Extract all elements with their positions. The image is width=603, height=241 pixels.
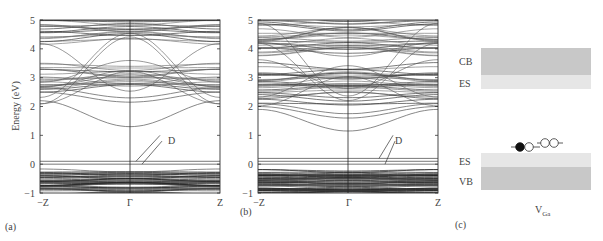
annotation-pointer [379, 135, 393, 158]
vb-label: VB [459, 176, 473, 187]
panel-label-a: (a) [5, 221, 16, 233]
xtick-minus-z-b: −Z [253, 197, 265, 208]
vb-band [481, 167, 591, 190]
defect-label-sub: Ga [542, 210, 551, 218]
annotation-pointer [142, 141, 162, 164]
defect-label: VGa [535, 204, 551, 218]
y-tick-label: 3 [30, 72, 35, 83]
annotation-pointer [385, 141, 395, 164]
xtick-gamma-a: Γ [127, 197, 133, 208]
figure-canvas: −1012345 −1012345 Energy (eV) −Z Γ Z (a)… [0, 0, 603, 241]
annotation-d-a: D [168, 135, 175, 146]
y-tick-label: 0 [30, 159, 35, 170]
panel-b-band-structure: −1012345 [242, 15, 438, 199]
y-tick-label: 2 [30, 101, 35, 112]
es-band-top [481, 75, 591, 89]
y-tick-label: 5 [248, 15, 253, 26]
filled-electron-icon [516, 143, 525, 152]
y-tick-label: 1 [248, 130, 253, 141]
y-tick-label: 4 [248, 43, 253, 54]
panel-a-band-structure: −1012345 [24, 15, 220, 199]
y-tick-label: 4 [30, 43, 35, 54]
y-tick-label: 1 [30, 130, 35, 141]
xtick-minus-z-a: −Z [37, 197, 49, 208]
es-band-bottom [481, 153, 591, 167]
panel-label-b: (b) [240, 206, 252, 218]
y-tick-label: 2 [248, 101, 253, 112]
cb-label: CB [459, 56, 473, 67]
y-axis-label: Energy (eV) [10, 81, 22, 131]
y-tick-label: 5 [30, 15, 35, 26]
y-tick-label: 3 [248, 72, 253, 83]
cb-band [481, 48, 591, 75]
empty-state-icon [525, 143, 534, 152]
y-tick-label: −1 [242, 188, 253, 199]
es-label-bottom: ES [459, 156, 471, 167]
y-tick-label: 0 [248, 159, 253, 170]
xtick-z-b: Z [435, 197, 441, 208]
y-tick-label: −1 [24, 188, 35, 199]
annotation-d-b: D [395, 135, 402, 146]
xtick-gamma-b: Γ [346, 197, 352, 208]
xtick-z-a: Z [217, 197, 223, 208]
panel-label-c: (c) [455, 219, 466, 231]
es-label-top: ES [459, 78, 471, 89]
empty-state-icon [550, 139, 559, 148]
empty-state-icon [541, 139, 550, 148]
panel-c-schematic: CB ES ES VB VGa (c) [455, 48, 591, 231]
